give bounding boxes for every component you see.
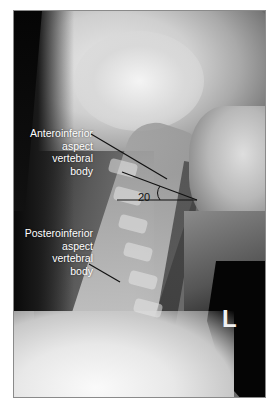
xray-image: Anteroinferior aspect vertebral body Pos… bbox=[14, 11, 265, 397]
annotation-lines bbox=[14, 11, 266, 398]
angle-value: 20 bbox=[138, 191, 150, 203]
posterior-pointer-line bbox=[89, 264, 120, 282]
angle-arc bbox=[158, 186, 161, 200]
anterior-pointer-line bbox=[91, 134, 167, 179]
xray-frame: Anteroinferior aspect vertebral body Pos… bbox=[13, 10, 266, 398]
side-marker: L bbox=[222, 305, 237, 333]
